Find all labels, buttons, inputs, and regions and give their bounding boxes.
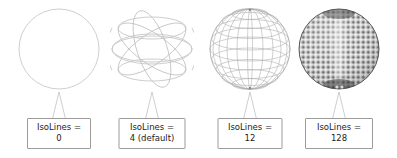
label-line-1: IsoLines = [34, 122, 84, 133]
label-line-2: 0 [34, 133, 84, 144]
leader-line [330, 92, 348, 120]
leader-line [50, 92, 68, 120]
label-line-1: IsoLines = [312, 122, 366, 133]
label-line-1: IsoLines = [126, 122, 179, 133]
isolines-comparison-figure: IsoLines = 0 [0, 0, 397, 158]
label-line-2: 12 [225, 133, 276, 144]
label-line-2: 128 [312, 133, 366, 144]
label-box-isolines-4: IsoLines = 4 (default) [119, 118, 186, 149]
sphere-isolines-12 [208, 6, 292, 92]
label-box-isolines-0: IsoLines = 0 [27, 118, 91, 149]
sphere-isolines-0 [17, 6, 101, 92]
label-line-2: 4 (default) [126, 133, 179, 144]
label-line-1: IsoLines = [225, 122, 276, 133]
label-box-isolines-128: IsoLines = 128 [305, 118, 373, 149]
label-box-isolines-12: IsoLines = 12 [218, 118, 283, 149]
leader-line [241, 92, 259, 120]
isolines-panel-12: IsoLines = 12 [205, 0, 295, 158]
sphere-isolines-4 [110, 6, 194, 92]
leader-line [143, 92, 161, 120]
isolines-panel-0: IsoLines = 0 [14, 0, 104, 158]
sphere-isolines-128 [297, 6, 381, 92]
isolines-panel-128: IsoLines = 128 [294, 0, 384, 158]
isolines-panel-4: IsoLines = 4 (default) [107, 0, 197, 158]
